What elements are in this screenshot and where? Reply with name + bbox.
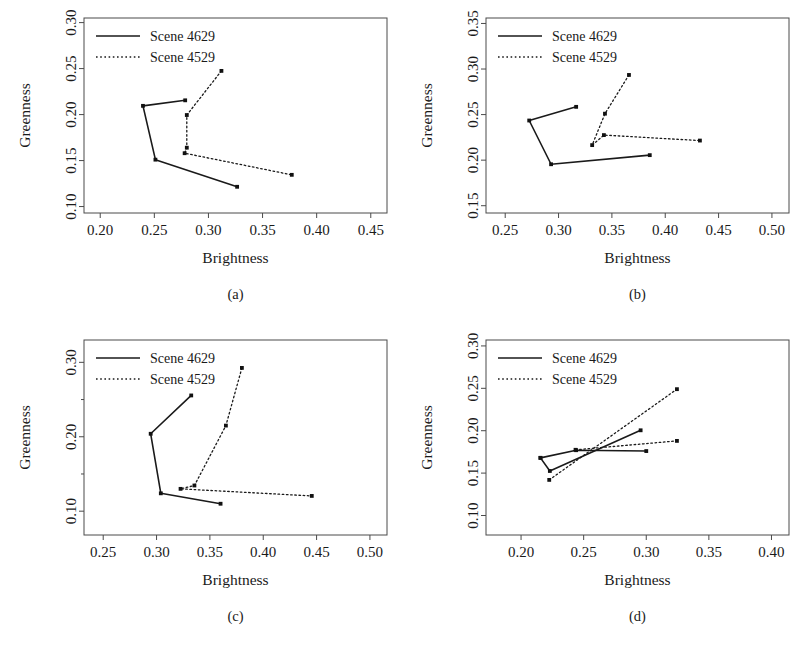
data-point-marker	[141, 104, 145, 108]
data-point-marker	[548, 469, 552, 473]
x-axis-title: Brightness	[202, 249, 268, 266]
y-axis-title: Greenness	[418, 83, 435, 148]
x-tick-label: 0.25	[571, 544, 597, 560]
y-axis-title: Greenness	[418, 405, 435, 470]
x-tick-label: 0.40	[250, 544, 276, 560]
x-tick-label: 0.25	[141, 222, 167, 238]
y-tick-label: 0.30	[63, 9, 79, 35]
data-point-marker	[698, 139, 702, 143]
data-point-marker	[574, 448, 578, 452]
data-point-marker	[310, 494, 314, 498]
x-tick-label: 0.50	[759, 222, 785, 238]
series-line-scene-4629	[143, 100, 237, 186]
data-point-marker	[154, 158, 158, 162]
x-tick-label: 0.35	[249, 222, 275, 238]
x-tick-label: 0.45	[303, 544, 329, 560]
data-point-marker	[527, 119, 531, 123]
series-line-scene-4629	[529, 107, 650, 164]
data-point-marker	[224, 424, 228, 428]
data-point-marker	[639, 428, 643, 432]
panel-c: 0.250.300.350.400.450.500.100.200.30Scen…	[0, 322, 401, 644]
data-point-marker	[185, 113, 189, 117]
data-point-marker	[644, 449, 648, 453]
data-point-marker	[290, 173, 294, 177]
plot-frame	[84, 18, 387, 213]
data-point-marker	[220, 69, 224, 73]
data-point-marker	[547, 478, 551, 482]
data-point-marker	[183, 98, 187, 102]
panel-d: 0.200.250.300.350.400.100.150.200.250.30…	[402, 322, 803, 644]
legend-label-scene-4529: Scene 4529	[150, 372, 215, 387]
x-tick-label: 0.45	[358, 222, 384, 238]
data-point-marker	[235, 185, 239, 189]
data-point-marker	[675, 387, 679, 391]
x-tick-label: 0.30	[195, 222, 221, 238]
panel-caption-b: (b)	[629, 286, 646, 303]
data-point-marker	[602, 133, 606, 137]
series-line-scene-4529	[576, 441, 677, 450]
data-point-marker	[675, 439, 679, 443]
data-point-marker	[193, 484, 197, 488]
legend-label-scene-4629: Scene 4629	[552, 351, 617, 366]
panel-caption-a: (a)	[227, 286, 243, 303]
legend-label-scene-4629: Scene 4629	[150, 351, 215, 366]
series-line-scene-4529	[549, 389, 677, 480]
panel-caption-d: (d)	[629, 608, 646, 625]
x-tick-label: 0.20	[87, 222, 113, 238]
x-tick-label: 0.40	[304, 222, 330, 238]
figure-container: 0.200.250.300.350.400.450.100.150.200.25…	[0, 0, 803, 645]
legend-label-scene-4629: Scene 4629	[150, 29, 215, 44]
data-point-marker	[648, 153, 652, 157]
y-tick-label: 0.30	[63, 349, 79, 375]
x-tick-label: 0.30	[143, 544, 169, 560]
y-axis-title: Greenness	[16, 83, 33, 148]
plot-frame	[486, 18, 789, 213]
x-tick-label: 0.25	[492, 222, 518, 238]
x-tick-label: 0.35	[696, 544, 722, 560]
data-point-marker	[183, 151, 187, 155]
y-tick-label: 0.15	[465, 193, 481, 219]
x-tick-label: 0.40	[652, 222, 678, 238]
x-axis-title: Brightness	[604, 571, 670, 588]
y-tick-label: 0.10	[63, 193, 79, 219]
legend-label-scene-4529: Scene 4529	[150, 50, 215, 65]
y-tick-label: 0.30	[465, 56, 481, 82]
panel-caption-c: (c)	[227, 608, 243, 625]
data-point-marker	[574, 105, 578, 109]
legend-label-scene-4529: Scene 4529	[552, 372, 617, 387]
x-tick-label: 0.30	[545, 222, 571, 238]
y-tick-label: 0.35	[465, 10, 481, 36]
y-tick-label: 0.20	[63, 424, 79, 450]
y-tick-label: 0.25	[63, 55, 79, 81]
x-tick-label: 0.50	[357, 544, 383, 560]
y-tick-label: 0.20	[465, 147, 481, 173]
data-point-marker	[189, 394, 193, 398]
data-point-marker	[603, 112, 607, 116]
legend-label-scene-4629: Scene 4629	[552, 29, 617, 44]
panel-a: 0.200.250.300.350.400.450.100.150.200.25…	[0, 0, 401, 322]
data-point-marker	[590, 143, 594, 147]
data-point-marker	[240, 366, 244, 370]
y-axis-title: Greenness	[16, 405, 33, 470]
series-line-scene-4529	[185, 71, 292, 175]
x-axis-title: Brightness	[202, 571, 268, 588]
x-tick-label: 0.20	[508, 544, 534, 560]
data-point-marker	[179, 487, 183, 491]
data-point-marker	[219, 502, 223, 506]
plot-frame	[84, 340, 387, 535]
y-tick-label: 0.25	[465, 375, 481, 401]
data-point-marker	[627, 73, 631, 77]
y-tick-label: 0.10	[465, 502, 481, 528]
y-tick-label: 0.10	[63, 498, 79, 524]
series-line-scene-4529	[181, 368, 312, 496]
y-tick-label: 0.30	[465, 333, 481, 359]
y-tick-label: 0.20	[465, 418, 481, 444]
x-tick-label: 0.35	[599, 222, 625, 238]
plot-frame	[486, 340, 789, 535]
x-axis-title: Brightness	[604, 249, 670, 266]
panel-b: 0.250.300.350.400.450.500.150.200.250.30…	[402, 0, 803, 322]
x-tick-label: 0.25	[90, 544, 116, 560]
data-point-marker	[539, 456, 543, 460]
data-point-marker	[549, 162, 553, 166]
x-tick-label: 0.40	[758, 544, 784, 560]
